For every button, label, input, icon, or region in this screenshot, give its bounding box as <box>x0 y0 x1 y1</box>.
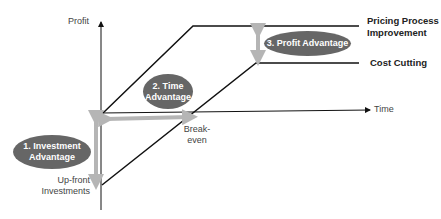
time-advantage-callout: 2. TimeAdvantage <box>143 74 193 109</box>
x-axis <box>101 110 370 113</box>
breakeven-label: Break- even <box>182 124 212 146</box>
breakeven-line2: even <box>182 135 212 146</box>
callout-1-line2: Advantage <box>23 152 81 163</box>
callout-1-line1: 1. Investment <box>23 141 81 152</box>
x-axis-label: Time <box>374 104 394 115</box>
time-arrow <box>106 117 190 119</box>
pricing-label: Pricing Process Improvement <box>367 15 439 39</box>
callout-2-line2: Advantage <box>145 92 191 103</box>
upfront-label: Up-front Investments <box>40 175 90 197</box>
pricing-label-line2: Improvement <box>367 27 439 39</box>
pricing-label-line1: Pricing Process <box>367 15 439 27</box>
cost-cutting-line <box>102 63 359 185</box>
profit-advantage-callout: 3. Profit Advantage <box>264 31 351 56</box>
y-axis-label: Profit <box>68 16 89 27</box>
callout-2-line1: 2. Time <box>145 81 191 92</box>
upfront-line2: Investments <box>40 186 90 197</box>
cost-cutting-label: Cost Cutting <box>370 57 427 69</box>
investment-advantage-callout: 1. InvestmentAdvantage <box>13 135 91 169</box>
upfront-line1: Up-front <box>40 175 90 186</box>
breakeven-line1: Break- <box>182 124 212 135</box>
